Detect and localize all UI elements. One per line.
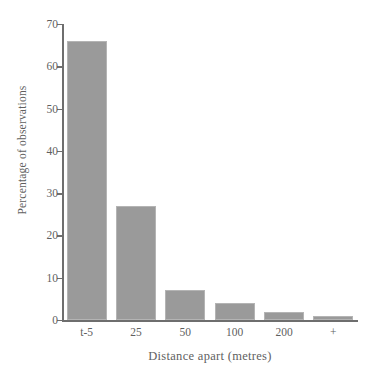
bar	[67, 41, 107, 320]
x-tick-label: 25	[130, 326, 142, 338]
bar-chart: Percentage of observations 0102030405060…	[0, 0, 370, 387]
x-tick-label: +	[330, 326, 337, 338]
y-tick-label: 30	[47, 185, 59, 201]
y-tick-label: 60	[47, 58, 59, 74]
x-axis-tick-labels: t-52550100200+	[62, 326, 358, 346]
x-axis-line	[62, 320, 358, 322]
bar	[264, 312, 304, 320]
plot-area: 010203040506070 t-52550100200+	[62, 24, 358, 320]
bar	[165, 290, 205, 320]
x-tick-label: 200	[275, 326, 292, 338]
bar	[313, 316, 353, 320]
y-tick-label: 20	[47, 227, 59, 243]
x-tick-label: 100	[226, 326, 243, 338]
y-tick-label: 70	[47, 16, 59, 32]
y-tick-label: 50	[47, 101, 59, 117]
y-axis-title: Percentage of observations	[16, 0, 34, 300]
x-tick-label: 50	[180, 326, 192, 338]
y-tick-label: 10	[47, 270, 59, 286]
bar-series	[62, 24, 358, 320]
bar	[116, 206, 156, 320]
y-tick-label: 0	[52, 312, 58, 328]
bar	[215, 303, 255, 320]
x-tick-label: t-5	[80, 326, 93, 338]
y-tick-label: 40	[47, 143, 59, 159]
x-axis-title: Distance apart (metres)	[62, 349, 358, 364]
